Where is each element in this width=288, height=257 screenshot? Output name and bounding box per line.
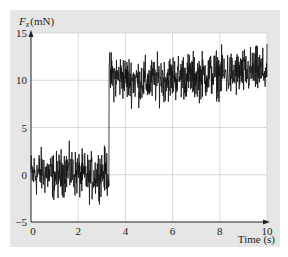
x-tick-label: 4 — [123, 225, 129, 237]
x-tick-label: 2 — [75, 225, 81, 237]
y-tick-label: −5 — [15, 216, 27, 228]
x-tick-label: 0 — [30, 225, 36, 237]
x-tick-label: 8 — [217, 225, 223, 237]
y-tick-label: 10 — [16, 74, 28, 86]
force-time-chart: −5051015 0246810 Fx(mN) Time (s) — [0, 0, 288, 257]
x-tick-labels: 0246810 — [30, 225, 273, 237]
y-tick-labels: −5051015 — [15, 27, 27, 228]
y-tick-label: 5 — [22, 122, 28, 134]
x-axis-label: Time (s) — [238, 233, 276, 246]
y-axis-label: Fx(mN) — [18, 15, 54, 29]
x-tick-label: 6 — [170, 225, 176, 237]
y-tick-label: 0 — [22, 169, 28, 181]
